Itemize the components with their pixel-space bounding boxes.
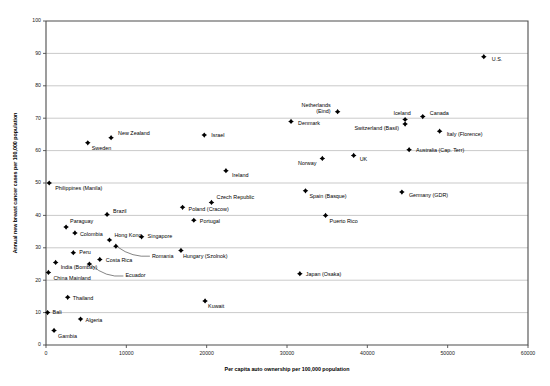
x-tick-label: 30000: [280, 350, 295, 356]
data-point-label: Australia (Cap. Terr): [416, 147, 464, 153]
chart-canvas: 0102030405060708090100 01000020000300004…: [0, 0, 550, 386]
label-leader-line: [118, 247, 150, 256]
y-tick-label: 10: [35, 309, 41, 315]
y-tick-label: 20: [35, 277, 41, 283]
data-point-marker: [202, 298, 208, 303]
data-point-marker: [180, 205, 186, 210]
data-point-label: Gambia: [58, 333, 77, 339]
data-point-marker: [320, 156, 326, 161]
data-point-label: U.S.: [492, 56, 502, 62]
data-point-label: Romania: [152, 253, 174, 259]
data-point-label: UK: [360, 156, 368, 162]
x-axis-title: Per capita auto ownership per 100,000 po…: [225, 366, 350, 372]
data-point-label: Spain (Basque): [309, 193, 346, 199]
data-point-marker: [72, 230, 78, 235]
data-point-label: Japan (Osaka): [306, 271, 342, 277]
data-point-marker: [104, 212, 110, 217]
data-point-marker: [51, 328, 57, 333]
data-point-marker: [481, 54, 487, 59]
data-point-label: Germany (GDR): [409, 192, 448, 198]
y-tick-label: 40: [35, 212, 41, 218]
data-point-labels: U.S.Netherlands(Eind)CanadaIcelandDenmar…: [53, 56, 503, 339]
y-tick-label: 90: [35, 50, 41, 56]
data-point-marker: [406, 147, 412, 152]
data-point-label: Colombia: [80, 231, 103, 237]
data-point-label: Norway: [298, 160, 317, 166]
data-point-marker: [191, 218, 197, 223]
data-point-marker: [402, 117, 408, 122]
data-point-label: Canada: [430, 110, 449, 116]
data-point-marker: [97, 257, 103, 262]
data-point-label: Singapore: [148, 233, 173, 239]
data-point-label: China Mainland: [53, 275, 90, 281]
x-tick-label: 40000: [360, 350, 375, 356]
y-axis-title: Annual new breast cancer cases per 100,0…: [12, 113, 18, 254]
data-point-label: Switzerland (Basil): [354, 125, 399, 131]
y-axis-ticks: 0102030405060708090100: [32, 17, 46, 347]
x-tick-label: 10000: [119, 350, 134, 356]
data-point-label: Hungary (Szolnok): [183, 253, 228, 259]
data-point-label: Costa Rica: [106, 257, 132, 263]
data-point-marker: [402, 121, 408, 126]
data-point-marker: [78, 316, 84, 321]
data-point-label: Peru: [79, 249, 90, 255]
y-tick-label: 60: [35, 147, 41, 153]
y-tick-label: 50: [35, 179, 41, 185]
data-point-label: Netherlands(Eind): [302, 102, 331, 114]
y-tick-label: 80: [35, 82, 41, 88]
data-point-label: India (Bombay): [61, 264, 98, 270]
data-point-label: Algeria: [86, 317, 103, 323]
data-point-marker: [65, 295, 71, 300]
data-point-marker: [399, 189, 405, 194]
data-point-marker: [303, 188, 309, 193]
data-point-label: Ecuador: [125, 272, 145, 278]
data-point-marker: [53, 260, 59, 265]
data-point-marker: [108, 135, 114, 140]
data-point-label: Philippines (Manila): [55, 185, 102, 191]
data-point-label: Brazil: [113, 208, 126, 214]
data-point-label: Bali: [53, 309, 62, 315]
data-point-label: Hong Kong: [114, 232, 141, 238]
y-tick-label: 100: [32, 17, 41, 23]
data-point-label: Ireland: [232, 172, 248, 178]
data-point-label: Denmark: [298, 120, 320, 126]
data-point-marker: [351, 153, 357, 158]
data-point-marker: [297, 271, 303, 276]
x-tick-label: 60000: [521, 350, 536, 356]
data-point-marker: [46, 180, 52, 185]
x-tick-label: 20000: [199, 350, 214, 356]
data-point-marker: [437, 129, 443, 134]
data-point-label: Paraguay: [70, 218, 93, 224]
data-point-marker: [223, 168, 229, 173]
scatter-chart: 0102030405060708090100 01000020000300004…: [0, 0, 550, 386]
data-point-label: Kuwait: [208, 303, 225, 309]
data-point-label: Israel: [211, 132, 224, 138]
data-point-label: Italy (Florence): [447, 131, 483, 137]
data-point-marker: [63, 224, 69, 229]
grid-lines: [46, 53, 528, 312]
data-point-marker: [335, 109, 341, 114]
data-point-marker: [323, 213, 329, 218]
data-point-label: Thailand: [73, 295, 94, 301]
data-point-marker: [288, 119, 294, 124]
x-axis-ticks: 0100002000030000400005000060000: [45, 345, 536, 356]
data-point-marker: [71, 250, 77, 255]
data-point-marker: [209, 200, 215, 205]
y-tick-label: 0: [38, 341, 41, 347]
data-point-marker: [85, 140, 91, 145]
x-tick-label: 0: [45, 350, 48, 356]
x-tick-label: 50000: [440, 350, 455, 356]
data-point-label: Czech Republic: [216, 194, 254, 200]
data-point-marker: [107, 237, 113, 242]
data-point-label: Sweden: [92, 145, 111, 151]
data-point-label: Iceland: [393, 110, 410, 116]
y-tick-label: 70: [35, 115, 41, 121]
data-point-label: Portugal: [200, 218, 220, 224]
data-point-label: New Zealand: [118, 130, 150, 136]
data-point-marker: [201, 132, 207, 137]
data-point-label: Puerto Rico: [330, 218, 358, 224]
y-tick-label: 30: [35, 244, 41, 250]
data-point-label: Poland (Cracow): [189, 206, 229, 212]
